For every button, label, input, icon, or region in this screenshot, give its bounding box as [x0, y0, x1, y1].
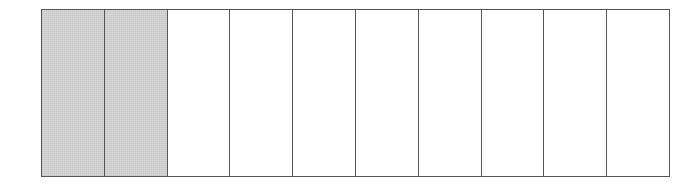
unshaded-cell	[356, 10, 419, 176]
shaded-cell	[105, 10, 168, 176]
unshaded-cell	[544, 10, 607, 176]
unshaded-cell	[293, 10, 356, 176]
unshaded-cell	[230, 10, 293, 176]
shaded-cell	[42, 10, 105, 176]
unshaded-cell	[607, 10, 669, 176]
unshaded-cell	[419, 10, 482, 176]
unshaded-cell	[482, 10, 545, 176]
unshaded-cell	[168, 10, 231, 176]
fraction-bar	[41, 9, 670, 177]
